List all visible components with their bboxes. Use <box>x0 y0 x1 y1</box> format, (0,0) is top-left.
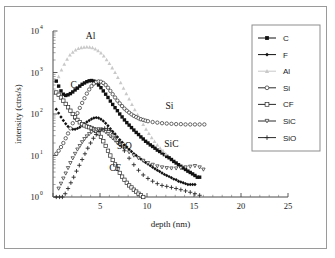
data-point <box>71 122 74 125</box>
data-point <box>77 163 81 167</box>
data-point <box>193 165 196 168</box>
data-point <box>106 96 109 99</box>
annotation-SiC: SiC <box>164 139 178 149</box>
data-point <box>80 157 84 161</box>
data-point <box>78 106 81 109</box>
data-point <box>151 179 155 183</box>
data-point <box>102 140 105 143</box>
y-axis-title: intensity (ctns/s) <box>13 84 23 144</box>
legend-label-F: F <box>283 51 288 60</box>
data-point <box>62 119 65 122</box>
data-point <box>66 106 69 109</box>
data-point <box>99 135 102 138</box>
data-point <box>142 195 145 198</box>
data-point <box>189 165 192 168</box>
data-point <box>132 154 135 157</box>
data-point <box>144 127 148 131</box>
legend-label-C: C <box>283 34 289 43</box>
data-point <box>69 162 72 165</box>
data-point <box>111 103 114 106</box>
y-tick-exponent: 4 <box>40 24 43 30</box>
data-point <box>57 149 60 152</box>
data-point <box>156 121 159 124</box>
data-point <box>127 156 131 160</box>
data-point <box>69 127 72 130</box>
data-point <box>105 58 109 62</box>
data-point <box>74 169 78 173</box>
data-point <box>130 103 134 107</box>
x-tick-label: 15 <box>190 201 199 211</box>
data-point <box>80 141 83 144</box>
data-point <box>174 167 177 170</box>
data-point <box>184 123 187 126</box>
data-point <box>147 132 151 136</box>
data-point <box>59 115 62 118</box>
data-point <box>78 144 81 147</box>
data-point <box>193 183 196 186</box>
data-point <box>99 86 102 89</box>
data-point <box>265 103 269 107</box>
data-point <box>170 167 173 170</box>
data-point <box>109 89 112 92</box>
data-point <box>116 76 120 80</box>
data-point <box>118 112 121 115</box>
data-point <box>198 166 201 169</box>
data-point <box>179 188 183 192</box>
data-point <box>160 183 164 187</box>
data-point <box>160 122 163 125</box>
data-point <box>62 141 65 144</box>
data-point <box>183 189 187 193</box>
x-tick-label: 25 <box>284 201 293 211</box>
data-point <box>71 157 74 160</box>
data-point <box>116 109 119 112</box>
data-point <box>188 190 192 194</box>
data-point <box>111 158 114 161</box>
data-point <box>73 152 76 155</box>
data-point <box>174 186 178 190</box>
data-point <box>59 145 62 148</box>
data-point <box>96 49 100 53</box>
data-point <box>62 62 66 66</box>
data-point <box>72 175 76 179</box>
data-point <box>66 186 70 190</box>
data-point <box>59 89 62 92</box>
data-point <box>155 143 159 147</box>
data-point <box>179 122 182 125</box>
data-point <box>108 62 112 66</box>
data-point <box>165 184 169 188</box>
data-point <box>65 57 69 61</box>
data-point <box>165 167 168 170</box>
data-point <box>203 123 206 126</box>
data-point <box>83 138 86 141</box>
annotation-Si: Si <box>166 101 174 111</box>
data-point <box>63 192 67 196</box>
data-point <box>86 146 90 150</box>
data-point <box>265 86 269 90</box>
x-tick-label: 10 <box>143 201 152 211</box>
data-point <box>64 102 67 105</box>
data-point <box>83 97 86 100</box>
data-point <box>141 123 145 127</box>
data-point <box>66 167 69 170</box>
data-point <box>104 144 107 147</box>
y-tick-exponent: 2 <box>40 107 43 113</box>
data-point <box>91 136 95 140</box>
data-point <box>158 146 162 150</box>
annotation-Al: Al <box>86 31 96 41</box>
data-point <box>170 122 173 125</box>
sims-depth-profile-chart: 510152025100101102103104depth (nm)intens… <box>5 7 328 250</box>
data-point <box>57 187 60 190</box>
figure-frame: 510152025100101102103104depth (nm)intens… <box>4 6 327 249</box>
legend-label-CF: CF <box>283 100 294 109</box>
data-point <box>198 123 201 126</box>
y-tick-exponent: 1 <box>40 149 43 155</box>
data-point <box>193 192 197 196</box>
data-point <box>119 81 123 85</box>
data-point <box>165 122 168 125</box>
y-tick-label: 10 <box>31 109 40 119</box>
data-point <box>133 108 137 112</box>
data-point <box>57 84 60 87</box>
data-point <box>85 92 88 95</box>
x-tick-label: 5 <box>98 201 102 211</box>
data-point <box>120 115 123 118</box>
